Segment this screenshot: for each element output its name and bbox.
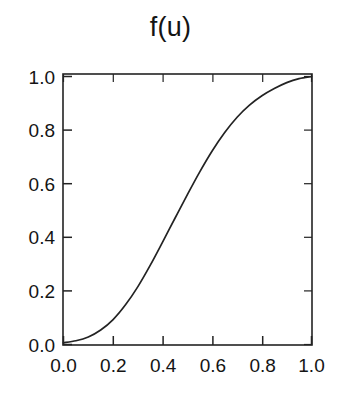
x-tick-label: 0.6	[200, 355, 226, 376]
y-tick-label: 0.4	[29, 227, 56, 248]
y-tick-labels: 0.0 0.2 0.4 0.6 0.8 1.0	[29, 67, 56, 356]
y-axis-ticks	[63, 77, 312, 345]
plot-frame	[63, 74, 312, 345]
x-axis-ticks	[64, 74, 312, 345]
x-tick-labels: 0.0 0.2 0.4 0.6 0.8 1.0	[50, 355, 324, 376]
plot-area: 0.0 0.2 0.4 0.6 0.8 1.0 0.0 0.2 0.4 0.6 …	[0, 0, 341, 404]
x-tick-label: 0.4	[150, 355, 177, 376]
x-tick-label: 0.2	[100, 355, 126, 376]
data-curve-f-u	[64, 77, 312, 343]
chart-figure: f(u)	[0, 0, 341, 404]
y-tick-label: 0.2	[29, 281, 55, 302]
x-tick-label: 0.0	[50, 355, 76, 376]
x-tick-label: 0.8	[249, 355, 275, 376]
y-tick-label: 1.0	[29, 67, 55, 88]
x-tick-label: 1.0	[298, 355, 324, 376]
y-tick-label: 0.6	[29, 174, 55, 195]
y-tick-label: 0.0	[29, 335, 55, 356]
y-tick-label: 0.8	[29, 120, 55, 141]
